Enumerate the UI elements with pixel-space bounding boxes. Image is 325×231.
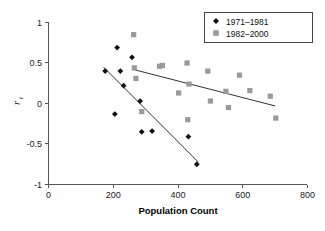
- data-point: [205, 69, 210, 74]
- data-point: [131, 32, 136, 37]
- data-point: [185, 134, 191, 140]
- y-tick-label-3: -0.5: [26, 139, 42, 149]
- y-axis-title-main: r: [11, 101, 22, 105]
- data-point: [226, 105, 231, 110]
- data-point: [247, 88, 252, 93]
- data-point: [176, 90, 181, 95]
- legend-marker-square-icon: [213, 30, 219, 36]
- x-tick-label-1: 200: [106, 190, 121, 200]
- data-point: [223, 89, 228, 94]
- legend: 1971–1981 1982–2000: [205, 13, 313, 43]
- x-axis-title: Population Count: [138, 205, 218, 216]
- data-point: [184, 60, 189, 65]
- data-point: [102, 68, 108, 74]
- x-tick-label-3: 600: [235, 190, 250, 200]
- y-tick-label-0: 1: [37, 18, 42, 28]
- data-point: [133, 76, 138, 81]
- data-point: [186, 81, 191, 86]
- y-tick-label-1: 0.5: [29, 58, 42, 68]
- series-1: [131, 32, 278, 122]
- x-tick-label-0: 0: [46, 190, 51, 200]
- legend-label-0: 1971–1981: [226, 17, 269, 27]
- data-point: [185, 117, 190, 122]
- data-point: [194, 161, 200, 167]
- data-point: [137, 98, 143, 104]
- data-point: [273, 115, 278, 120]
- data-point: [121, 83, 127, 89]
- y-axis-title: r t: [11, 96, 25, 105]
- y-axis-ticks: [45, 23, 48, 185]
- trendline-series-1: [133, 69, 275, 105]
- x-tick-label-2: 400: [170, 190, 185, 200]
- data-point: [112, 111, 118, 117]
- chart-figure: 1 0.5 0 -0.5 -1 0 200 400 600 800 Popula…: [0, 0, 325, 231]
- y-tick-label-2: 0: [37, 99, 42, 109]
- y-tick-label-4: -1: [34, 180, 42, 190]
- data-point: [268, 94, 273, 99]
- legend-label-1: 1982–2000: [226, 29, 269, 39]
- data-point: [114, 45, 120, 51]
- scatter-plot: 1 0.5 0 -0.5 -1 0 200 400 600 800 Popula…: [0, 0, 325, 231]
- data-point: [237, 73, 242, 78]
- data-point: [132, 65, 137, 70]
- data-point: [149, 128, 155, 134]
- x-tick-label-4: 800: [300, 190, 315, 200]
- x-axis-ticks: [49, 185, 308, 188]
- data-point: [139, 129, 145, 135]
- data-point: [117, 68, 123, 74]
- data-point: [129, 54, 135, 60]
- trendline-series-0: [104, 67, 199, 162]
- data-point: [160, 63, 165, 68]
- series-layer: [102, 32, 278, 167]
- data-point: [208, 98, 213, 103]
- y-axis-title-subscript: t: [17, 96, 25, 99]
- data-point: [139, 109, 144, 114]
